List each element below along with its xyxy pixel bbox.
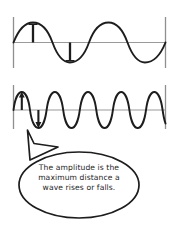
bubble-text-block: The amplitude is the maximum distance a … [26, 163, 132, 194]
figure-canvas [0, 0, 178, 229]
bubble-text-line-1: The amplitude is the [26, 163, 132, 173]
wave-amplitude-figure: The amplitude is the maximum distance a … [0, 0, 178, 229]
bubble-text-line-3: wave rises or falls. [26, 183, 132, 193]
bubble-text-line-2: maximum distance a [26, 173, 132, 183]
